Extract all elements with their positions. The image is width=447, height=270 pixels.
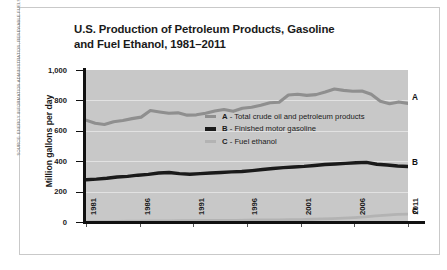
legend-swatch-a (205, 115, 216, 118)
x-tick-1986 (140, 224, 141, 227)
chart-title-line-1: U.S. Production of Petroleum Products, G… (74, 22, 374, 37)
y-tick-label-400: 400 (21, 157, 67, 166)
end-label-a: A (412, 93, 418, 102)
legend-key-a: A (222, 112, 228, 121)
y-tick-800 (76, 100, 83, 101)
legend-label-c: C - Fuel ethanol (222, 137, 277, 146)
x-tick-1996 (247, 224, 248, 227)
y-tick-label-600: 600 (21, 126, 67, 135)
legend-key-c: C (222, 137, 228, 146)
legend-item-c: C - Fuel ethanol (205, 135, 380, 148)
legend-item-b: B - Finished motor gasoline (205, 123, 380, 136)
x-tick-label-1981: 1981 (89, 198, 98, 228)
x-tick-label-2006: 2006 (358, 198, 367, 228)
y-tick-1000 (76, 70, 83, 71)
x-tick-label-1996: 1996 (250, 198, 259, 228)
source-credit: SOURCE: ENERGY INFORMATION ADMINISTRATIO… (16, 6, 21, 156)
y-tick-0 (76, 222, 83, 223)
legend-key-b: B (222, 124, 228, 133)
x-tick-2006 (354, 224, 355, 227)
x-tick-1981 (86, 224, 87, 227)
y-tick-label-200: 200 (21, 187, 67, 196)
legend-label-a: A - Total crude oil and petroleum produc… (222, 112, 365, 121)
x-tick-label-1991: 1991 (197, 198, 206, 228)
chart-title-line-2: and Fuel Ethanol, 1981–2011 (74, 37, 374, 52)
x-tick-label-1986: 1986 (143, 198, 152, 228)
y-tick-label-0: 0 (21, 218, 67, 227)
y-axis-line (83, 68, 86, 224)
x-tick-1991 (193, 224, 194, 227)
chart-legend: A - Total crude oil and petroleum produc… (205, 110, 380, 148)
legend-label-b: B - Finished motor gasoline (222, 124, 316, 133)
y-tick-600 (76, 131, 83, 132)
y-tick-label-1000: 1,000 (21, 66, 67, 75)
x-tick-2001 (301, 224, 302, 227)
page-title: U.S. Production of Petroleum Products, G… (74, 22, 374, 51)
y-tick-400 (76, 161, 83, 162)
y-tick-label-800: 800 (21, 96, 67, 105)
legend-swatch-b (205, 127, 216, 130)
end-label-c: C (412, 207, 418, 216)
y-tick-200 (76, 192, 83, 193)
legend-item-a: A - Total crude oil and petroleum produc… (205, 110, 380, 123)
x-tick-2011 (408, 224, 409, 227)
legend-swatch-c (205, 140, 216, 143)
chart-figure: SOURCE: ENERGY INFORMATION ADMINISTRATIO… (0, 0, 447, 270)
end-label-b: B (412, 158, 418, 167)
x-tick-label-2001: 2001 (304, 198, 313, 228)
series-line-b (86, 162, 408, 179)
